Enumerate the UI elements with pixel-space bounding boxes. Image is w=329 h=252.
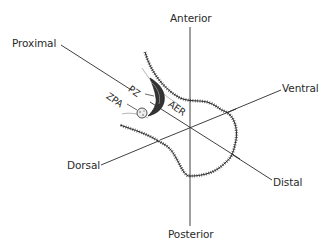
ventral-label: Ventral (282, 83, 319, 94)
proximal-label: Proximal (12, 38, 56, 49)
limb-bud-diagram: Anterior Posterior Proximal Distal Dorsa… (0, 0, 329, 252)
distal-label: Distal (273, 177, 302, 188)
zpa-region (137, 108, 147, 118)
dorsal-label: Dorsal (67, 160, 100, 171)
anterior-label: Anterior (170, 13, 212, 24)
posterior-label: Posterior (168, 229, 214, 240)
